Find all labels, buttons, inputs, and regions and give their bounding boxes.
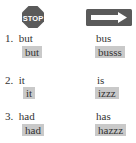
arrow-sign-icon (86, 9, 132, 26)
item-2-number-word: 2. it (5, 74, 25, 86)
svg-text:STOP: STOP (23, 14, 43, 23)
item-number: 1. (5, 32, 13, 44)
right-answer-box: busss (95, 46, 125, 58)
right-word: bus (96, 32, 111, 44)
stop-sign-icon: STOP (22, 6, 44, 28)
item-number: 3. (5, 110, 13, 122)
item-1-number-word: 1. but (5, 32, 33, 44)
right-word: is (97, 74, 104, 86)
right-answer-box: hazzz (95, 124, 126, 136)
left-word: it (19, 74, 25, 86)
right-answer-box: izzz (95, 87, 119, 99)
left-answer-box: but (22, 46, 42, 58)
left-word: had (19, 110, 35, 122)
right-word: has (96, 110, 111, 122)
item-number: 2. (5, 74, 13, 86)
left-answer-box: it (23, 87, 35, 99)
left-word: but (19, 32, 33, 44)
item-3-number-word: 3. had (5, 110, 35, 122)
left-answer-box: had (22, 124, 44, 136)
